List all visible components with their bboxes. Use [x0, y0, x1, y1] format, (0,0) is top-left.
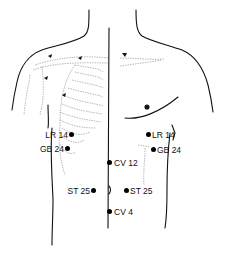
lr14-right-point — [146, 132, 151, 137]
st25-right-point — [124, 188, 129, 193]
gb24-left-point — [65, 146, 70, 151]
lr14-left-label: LR 14 — [45, 130, 68, 140]
lr14-right-label: LR 14 — [152, 130, 175, 140]
torso-outline — [0, 0, 226, 259]
gb24-right-label: GB 24 — [157, 145, 181, 155]
cv12-label: CV 12 — [114, 158, 138, 168]
torso-diagram: LR 14 GB 24 LR 14 GB 24 CV 12 ST 25 ST 2… — [0, 0, 226, 259]
lr14-left-point — [69, 132, 74, 137]
cv4-label: CV 4 — [114, 207, 133, 217]
st25-left-label: ST 25 — [67, 186, 90, 196]
gb24-right-point — [151, 147, 156, 152]
st25-right-label: ST 25 — [130, 186, 153, 196]
gb24-left-label: GB 24 — [40, 144, 64, 154]
st25-left-point — [91, 188, 96, 193]
cv4-point — [107, 209, 112, 214]
cv12-point — [107, 160, 112, 165]
